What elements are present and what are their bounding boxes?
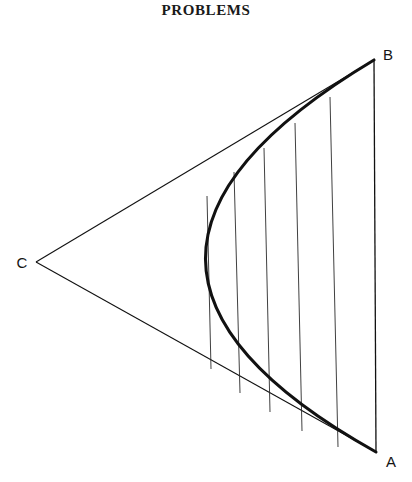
vertex-label-c: C [17,254,28,271]
edge-CB [36,60,374,262]
chord-2 [234,172,240,393]
figure-root: PROBLEMS B C A [0,0,412,482]
edge-BA [374,60,376,452]
chord-5 [330,97,338,447]
chord-4 [295,123,302,431]
geometry-diagram: B C A [0,0,412,482]
parabolic-arc [205,60,376,452]
vertex-label-a: A [386,453,396,470]
vertex-label-b: B [383,46,393,63]
edge-CA [36,262,376,452]
